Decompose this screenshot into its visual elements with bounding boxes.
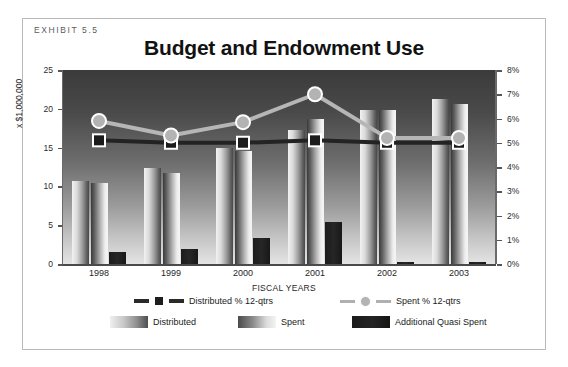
secondary-y-tick-mark — [497, 94, 502, 96]
secondary-y-tick-mark — [497, 191, 502, 193]
x-tick-label: 1998 — [63, 268, 135, 278]
secondary-y-tick-label: 6% — [507, 114, 541, 124]
marker-distributed-12-qtrs-2000 — [237, 137, 249, 149]
y-tick-label: 15 — [23, 143, 53, 153]
x-tick-label: 2001 — [279, 268, 351, 278]
legend-item-spent-12-qtrs: Spent % 12-qtrs — [340, 296, 461, 307]
secondary-y-tick-mark — [497, 264, 502, 266]
legend-bar-row: DistributedSpentAdditional Quasi Spent — [22, 316, 546, 336]
legend-label: Spent % 12-qtrs — [396, 297, 461, 306]
marker-distributed-12-qtrs-2001 — [309, 134, 321, 146]
legend-square-marker-icon — [154, 296, 164, 306]
marker-spent-12-qtrs-2003 — [452, 131, 466, 145]
x-axis-line — [63, 264, 496, 266]
legend-swatch-icon — [110, 316, 148, 328]
exhibit-label: EXHIBIT 5.5 — [34, 25, 99, 35]
legend-item-additional-quasi-spent: Additional Quasi Spent — [352, 316, 487, 328]
x-tick-label: 2000 — [207, 268, 279, 278]
secondary-y-tick-label: 3% — [507, 186, 541, 196]
exhibit-page: EXHIBIT 5.5 Budget and Endowment Use x $… — [0, 0, 568, 367]
legend-label: Additional Quasi Spent — [395, 318, 487, 327]
y-tick-label: 5 — [23, 220, 53, 230]
x-tick-label: 2002 — [351, 268, 423, 278]
secondary-y-tick-label: 1% — [507, 235, 541, 245]
legend-label: Spent — [281, 318, 305, 327]
legend-line-icon — [134, 299, 149, 303]
legend-item-spent: Spent — [238, 316, 305, 328]
plot-area — [63, 70, 495, 264]
y-tick-label: 25 — [23, 65, 53, 75]
legend-item-distributed-12-qtrs: Distributed % 12-qtrs — [134, 296, 273, 306]
legend-line-icon — [169, 299, 184, 303]
legend-line-icon — [376, 300, 391, 304]
legend-swatch-icon — [352, 316, 390, 328]
chart-title: Budget and Endowment Use — [0, 36, 568, 60]
legend-item-distributed: Distributed — [110, 316, 196, 328]
secondary-y-tick-mark — [497, 240, 502, 242]
x-tick-label: 2003 — [423, 268, 495, 278]
legend-swatch-icon — [238, 316, 276, 328]
secondary-y-tick-label: 4% — [507, 162, 541, 172]
secondary-y-tick-mark — [497, 216, 502, 218]
marker-spent-12-qtrs-1998 — [92, 114, 106, 128]
x-tick-label: 1999 — [135, 268, 207, 278]
marker-distributed-12-qtrs-1998 — [93, 134, 105, 146]
secondary-y-tick-mark — [497, 119, 502, 121]
marker-spent-12-qtrs-2000 — [236, 115, 250, 129]
marker-spent-12-qtrs-2002 — [380, 131, 394, 145]
line-spent-12-qtrs — [99, 94, 459, 138]
secondary-y-tick-mark — [497, 167, 502, 169]
marker-spent-12-qtrs-2001 — [308, 87, 322, 101]
secondary-y-tick-mark — [497, 143, 502, 145]
legend-line-icon — [340, 300, 355, 304]
line-distributed-12-qtrs — [99, 140, 459, 142]
legend-circle-marker-icon — [360, 296, 371, 307]
y-tick-label: 20 — [23, 104, 53, 114]
y-tick-label: 0 — [23, 259, 53, 269]
secondary-y-tick-mark — [497, 70, 502, 72]
secondary-y-axis-line — [495, 70, 497, 264]
legend-label: Distributed % 12-qtrs — [189, 297, 273, 306]
secondary-y-tick-label: 7% — [507, 89, 541, 99]
chart-legend: Distributed % 12-qtrsSpent % 12-qtrs Dis… — [22, 296, 546, 336]
secondary-y-tick-label: 5% — [507, 138, 541, 148]
secondary-y-tick-label: 2% — [507, 211, 541, 221]
marker-spent-12-qtrs-1999 — [164, 128, 178, 142]
secondary-y-tick-label: 8% — [507, 65, 541, 75]
y-tick-label: 10 — [23, 181, 53, 191]
legend-label: Distributed — [153, 318, 196, 327]
line-series-overlay — [63, 70, 495, 264]
legend-line-row: Distributed % 12-qtrsSpent % 12-qtrs — [22, 296, 546, 316]
secondary-y-tick-label: 0% — [507, 259, 541, 269]
x-axis-label: FISCAL YEARS — [0, 283, 568, 293]
